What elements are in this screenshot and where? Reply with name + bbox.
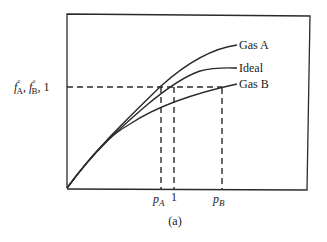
x-tick-1: 1 (171, 190, 177, 204)
label-gas-b: Gas B (239, 77, 269, 91)
x-tick-pB: pB (212, 192, 225, 208)
plot-frame (67, 14, 310, 190)
curve-gas-a (67, 45, 237, 188)
x-tick-pA: pA (152, 192, 165, 208)
figure-caption: (a) (168, 214, 181, 228)
y-axis-label: f°A, f°B, 1 (14, 79, 50, 96)
label-ideal: Ideal (239, 61, 264, 75)
label-gas-a: Gas A (239, 38, 269, 52)
fugacity-pressure-diagram: Gas A Ideal Gas B f°A, f°B, 1 pA 1 pB (a… (0, 0, 327, 242)
curve-gas-b (67, 84, 237, 188)
curve-ideal (67, 68, 237, 188)
